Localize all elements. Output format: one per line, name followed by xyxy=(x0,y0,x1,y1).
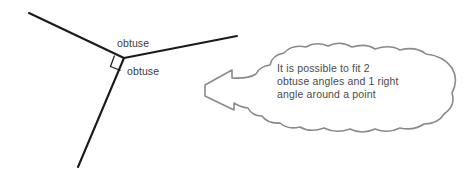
callout-text-line-2: obtuse angles and 1 right xyxy=(277,75,399,87)
diagram-svg: obtuse obtuse It is possible to fit 2 ob… xyxy=(0,0,473,175)
callout-text-line-1: It is possible to fit 2 xyxy=(277,62,370,74)
callout-text-line-3: angle around a point xyxy=(277,88,376,100)
diagram-canvas: obtuse obtuse It is possible to fit 2 ob… xyxy=(0,0,473,175)
obtuse-label-lower: obtuse xyxy=(127,65,159,77)
obtuse-label-upper: obtuse xyxy=(117,37,149,49)
